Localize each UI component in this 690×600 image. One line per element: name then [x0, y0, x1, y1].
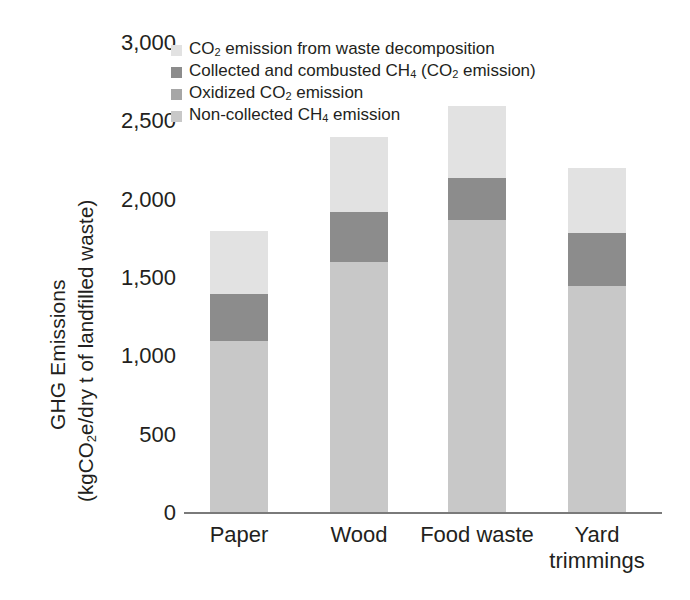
chart-legend: CO2 emission from waste decompositionCol…: [171, 40, 536, 128]
bar-segment[interactable]: [210, 294, 268, 341]
x-axis-line: [184, 512, 662, 514]
bar-segment[interactable]: [568, 168, 626, 232]
chart-figure: GHG Emissions (kgCO2e/dry t of landfille…: [0, 0, 690, 600]
bar-segment[interactable]: [330, 262, 388, 513]
x-label-line: Paper: [169, 522, 309, 548]
bar-segment[interactable]: [448, 220, 506, 513]
y-axis-tick-0: 0: [98, 502, 176, 524]
legend-swatch-icon: [171, 111, 182, 122]
x-label-line: Food waste: [407, 522, 547, 548]
legend-label: Collected and combusted CH4 (CO2 emissio…: [189, 61, 536, 84]
y-axis-title-prefix: (kgCO: [74, 442, 97, 502]
legend-item-non-collected-ch4[interactable]: Non-collected CH4 emission: [171, 106, 536, 126]
bar-segment[interactable]: [448, 178, 506, 220]
bar-wood[interactable]: [330, 137, 388, 513]
bar-segment[interactable]: [568, 286, 626, 513]
bar-food-waste[interactable]: [448, 106, 506, 513]
bar-segment[interactable]: [568, 233, 626, 286]
y-axis-title-line-1: GHG Emissions: [46, 279, 70, 430]
y-axis-tick-500: 500: [98, 424, 176, 446]
y-axis-tick-2000: 2,000: [98, 189, 176, 211]
bar-segment[interactable]: [210, 231, 268, 294]
x-axis-label-food-waste: Food waste: [407, 522, 547, 548]
y-axis-tick-1500: 1,500: [98, 267, 176, 289]
legend-swatch-icon: [171, 45, 182, 56]
bar-segment[interactable]: [330, 137, 388, 212]
legend-swatch-icon: [171, 67, 182, 78]
y-axis-tick-2500: 2,500: [98, 110, 176, 132]
y-axis-title-line-2: (kgCO2e/dry t of landfilled waste): [74, 200, 99, 502]
y-axis-title-subscript: 2: [84, 435, 99, 442]
legend-item-oxidized-co2[interactable]: Oxidized CO2 emission: [171, 84, 536, 104]
y-axis-tick-labels: 05001,0001,5002,0002,5003,000: [98, 0, 176, 600]
y-axis-tick-1000: 1,000: [98, 345, 176, 367]
x-label-line: trimmings: [527, 548, 667, 574]
y-axis-title-suffix: e/dry t of landfilled waste): [74, 200, 97, 435]
legend-label: Non-collected CH4 emission: [189, 105, 400, 128]
x-label-line: Yard: [527, 522, 667, 548]
legend-item-co2-decomposition[interactable]: CO2 emission from waste decomposition: [171, 40, 536, 60]
bar-paper[interactable]: [210, 231, 268, 513]
legend-item-collected-combusted-ch4[interactable]: Collected and combusted CH4 (CO2 emissio…: [171, 62, 536, 82]
x-axis-label-paper: Paper: [169, 522, 309, 548]
legend-label: Oxidized CO2 emission: [189, 83, 363, 106]
legend-label: CO2 emission from waste decomposition: [189, 39, 495, 62]
bar-segment[interactable]: [210, 341, 268, 513]
bar-segment[interactable]: [330, 212, 388, 262]
x-axis-label-yard-trimmings: Yardtrimmings: [527, 522, 667, 574]
y-axis-tick-3000: 3,000: [98, 32, 176, 54]
x-axis-tick-labels: PaperWoodFood wasteYardtrimmings: [184, 522, 662, 596]
bar-yard-trimmings[interactable]: [568, 168, 626, 513]
legend-swatch-icon: [171, 89, 182, 100]
